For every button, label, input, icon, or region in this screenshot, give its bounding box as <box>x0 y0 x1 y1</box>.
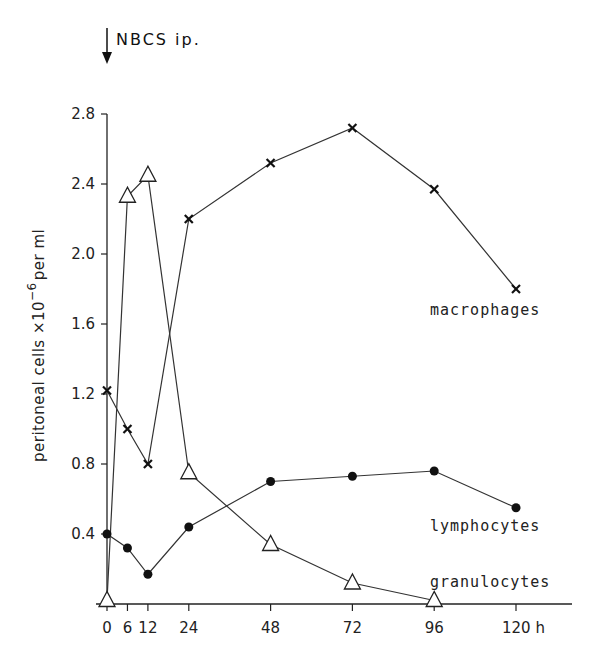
y-tick-label: 2.4 <box>71 175 95 193</box>
series-label-macrophages: macrophages <box>430 301 540 319</box>
dot-marker-icon <box>512 503 521 512</box>
dot-marker-icon <box>123 544 132 553</box>
injection-annotation: NBCS ip. <box>102 28 201 64</box>
y-tick-label: 0.4 <box>71 525 95 543</box>
y-tick-label: 1.2 <box>71 385 95 403</box>
y-tick-label: 2.8 <box>71 105 95 123</box>
x-tick-label: 6 <box>123 619 133 637</box>
dot-marker-icon <box>103 530 112 539</box>
x-marker-icon <box>512 285 520 293</box>
x-marker-icon <box>430 185 438 193</box>
dot-marker-icon <box>430 467 439 476</box>
y-axis-title: peritoneal cells ×10−6per ml <box>25 229 48 462</box>
series-line-macrophages <box>107 128 516 464</box>
axes: 0.40.81.21.62.02.42.8061224487296120 h <box>71 105 572 637</box>
x-marker-icon <box>348 124 356 132</box>
x-tick-label: 0 <box>102 619 112 637</box>
x-tick-label: 48 <box>261 619 280 637</box>
y-tick-label: 2.0 <box>71 245 95 263</box>
x-tick-label: 72 <box>343 619 362 637</box>
triangle-marker-icon <box>140 166 156 181</box>
dot-marker-icon <box>348 472 357 481</box>
x-tick-label: 96 <box>425 619 444 637</box>
series-label-lymphocytes: lymphocytes <box>430 517 540 535</box>
dot-marker-icon <box>266 477 275 486</box>
triangle-marker-icon <box>263 536 279 551</box>
x-marker-icon <box>267 159 275 167</box>
dot-marker-icon <box>184 523 193 532</box>
line-chart: 0.40.81.21.62.02.42.8061224487296120 h N… <box>0 0 599 662</box>
triangle-marker-icon <box>119 187 135 202</box>
triangle-marker-icon <box>344 574 360 589</box>
injection-label: NBCS ip. <box>116 30 201 49</box>
y-tick-label: 0.8 <box>71 455 95 473</box>
triangle-marker-icon <box>99 592 115 607</box>
series-label-granulocytes: granulocytes <box>430 573 550 591</box>
triangle-marker-icon <box>181 464 197 479</box>
x-marker-icon <box>123 425 131 433</box>
x-tick-label: 12 <box>138 619 157 637</box>
dot-marker-icon <box>143 570 152 579</box>
y-tick-label: 1.6 <box>71 315 95 333</box>
injection-arrow-icon <box>102 52 112 64</box>
x-tick-label: 120 h <box>502 619 545 637</box>
x-tick-label: 24 <box>179 619 198 637</box>
